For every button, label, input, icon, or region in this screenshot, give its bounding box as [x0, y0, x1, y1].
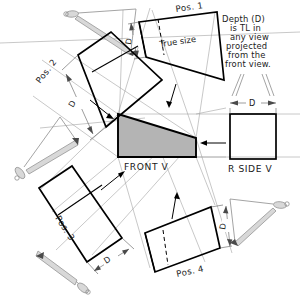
pos1-true-size-label: True size [158, 34, 197, 49]
depth-note: Depth (D) is TL in any view projected fr… [222, 14, 271, 69]
note-line-6: front view. [225, 59, 271, 69]
pos2-group[interactable]: Pos. 2 D [13, 32, 162, 180]
svg-text:front view.: front view. [225, 59, 271, 69]
r-side-depth-dimension: D [230, 74, 276, 114]
drawing-canvas: FRONT V R SIDE V D Depth (D) is TL [0, 0, 300, 305]
r-side-view-label: R SIDE V [228, 164, 273, 174]
pos4-rectangle[interactable] [145, 207, 220, 272]
pos4-direction-arrow [172, 192, 180, 219]
pos2-divider [92, 46, 138, 72]
pos4-divider [145, 233, 155, 272]
front-view-label: FRONT V [124, 162, 169, 172]
pos4-hidden-line [163, 230, 168, 265]
pos1-direction-arrow [166, 84, 176, 108]
technical-drawing: FRONT V R SIDE V D Depth (D) is TL [0, 0, 300, 305]
r-side-view-arrow [200, 140, 226, 145]
pos3-viewing-symbol [36, 251, 90, 295]
pos3-label: Pos. 3 [53, 214, 77, 243]
pos3-group[interactable]: Pos. 3 D [36, 166, 134, 295]
pos1-label: Pos. 1 [175, 0, 204, 14]
r-side-view-square[interactable] [230, 114, 276, 159]
pos1-group[interactable]: True size Pos. 1 D [64, 0, 224, 108]
r-side-depth-label: D [249, 98, 255, 108]
pos1-viewing-symbol [64, 9, 136, 56]
pos4-label: Pos. 4 [175, 263, 204, 279]
pos3-depth-dimension: D [87, 238, 134, 274]
pos2-viewing-symbol [13, 117, 79, 180]
pos3-rectangle[interactable] [39, 166, 122, 262]
pos4-viewing-symbol [230, 199, 289, 246]
front-view-wedge[interactable] [118, 114, 196, 157]
right-side-view[interactable]: R SIDE V D [200, 74, 276, 174]
front-view[interactable]: FRONT V [118, 114, 196, 172]
pos2-label: Pos. 2 [34, 57, 59, 85]
